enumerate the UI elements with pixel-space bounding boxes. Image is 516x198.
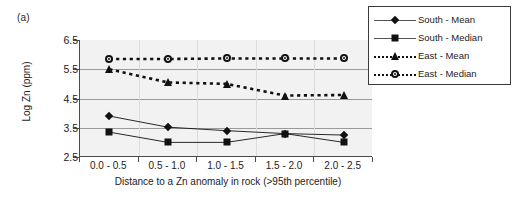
legend: South - MeanSouth - MedianEast - MeanEas…: [368, 6, 511, 85]
legend-label: South - Median: [418, 33, 482, 43]
legend-item: South - Mean: [372, 11, 507, 29]
legend-key: [372, 47, 418, 65]
data-point-marker: [164, 139, 171, 146]
y-axis-tick-labels: 6.55.54.53.52.5: [52, 33, 78, 161]
legend-label: East - Mean: [418, 51, 469, 61]
data-point-marker: [281, 54, 289, 62]
data-point-marker: [106, 129, 113, 136]
x-axis-label: Distance to a Zn anomaly in rock (>95th …: [78, 176, 378, 187]
legend-label: East - Median: [418, 69, 477, 79]
y-axis-label: Log Zn (ppm): [21, 47, 32, 137]
legend-marker-circle-icon: [391, 70, 399, 78]
x-tick-label: 1.0 - 1.5: [207, 160, 244, 171]
data-point-marker: [223, 139, 230, 146]
data-point-marker: [164, 55, 172, 63]
x-tick-label: 0.5 - 1.0: [149, 160, 186, 171]
data-point-marker: [282, 130, 289, 137]
x-tick-label: 2.0 - 2.5: [324, 160, 361, 171]
x-tick-label: 1.5 - 2.0: [266, 160, 303, 171]
legend-item: East - Median: [372, 65, 507, 83]
data-point-marker: [223, 54, 231, 62]
data-point-marker: [223, 80, 231, 88]
plot-area: [79, 40, 372, 157]
legend-item: East - Mean: [372, 47, 507, 65]
data-point-marker: [105, 65, 113, 73]
figure-chart-zn-vs-distance: (a) Log Zn (ppm) 6.55.54.53.52.5 0.0 - 0…: [0, 0, 516, 198]
legend-marker-triangle-icon: [391, 52, 399, 60]
data-point-marker: [340, 54, 348, 62]
panel-letter: (a): [17, 12, 30, 23]
legend-label: South - Mean: [418, 15, 475, 25]
legend-key: [372, 11, 418, 29]
legend-key: [372, 29, 418, 47]
data-point-marker: [105, 55, 113, 63]
legend-marker-diamond-icon: [391, 16, 399, 24]
data-point-marker: [340, 139, 347, 146]
legend-key: [372, 65, 418, 83]
data-point-marker: [164, 78, 172, 86]
data-series-layer: [80, 40, 372, 157]
x-tick-label: 0.0 - 0.5: [90, 160, 127, 171]
x-tick-mark: [372, 157, 373, 162]
legend-marker-square-icon: [392, 35, 399, 42]
legend-item: South - Median: [372, 29, 507, 47]
x-axis-tick-labels: 0.0 - 0.50.5 - 1.01.0 - 1.51.5 - 2.02.0 …: [79, 160, 372, 174]
data-point-marker: [340, 91, 348, 99]
data-point-marker: [281, 92, 289, 100]
